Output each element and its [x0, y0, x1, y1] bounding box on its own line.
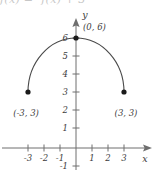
- point-label-right-endpoint: (3, 3): [115, 108, 138, 118]
- y-tick-label-1: 1: [63, 123, 68, 133]
- data-point-right-endpoint: [121, 89, 126, 94]
- y-tick-label-2: 2: [62, 105, 68, 115]
- x-tick-label--2: -2: [40, 153, 48, 163]
- graph-figure: f(x) = -f(x) + 3 -3: [0, 0, 156, 175]
- y-axis-label: y: [81, 9, 88, 20]
- y-tick-label--1: -1: [60, 161, 68, 171]
- y-tick-label-3: 3: [63, 87, 68, 97]
- y-tick-label-6: 6: [63, 33, 69, 43]
- x-tick-label-3: 3: [121, 153, 126, 163]
- x-tick-label-1: 1: [89, 153, 94, 163]
- data-point-left-endpoint: [25, 89, 30, 94]
- y-tick-label-5: 5: [63, 51, 68, 61]
- x-tick-label--3: -3: [24, 153, 32, 163]
- data-point-vertex: [73, 35, 78, 40]
- y-tick-label-4: 4: [62, 69, 68, 79]
- x-tick-label-2: 2: [104, 153, 110, 163]
- coordinate-plane: -3 -2 -1 1 2 3 1 2 3 4 5 6 -1 x y (0, 6)…: [0, 0, 156, 175]
- point-label-left-endpoint: (-3, 3): [13, 108, 39, 118]
- point-label-vertex: (0, 6): [83, 22, 106, 32]
- x-axis-label: x: [142, 153, 148, 164]
